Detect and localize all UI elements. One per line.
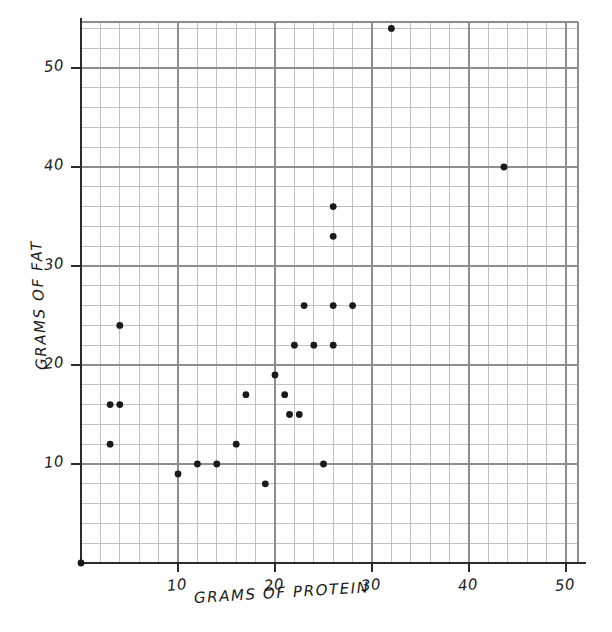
data-point <box>330 203 337 210</box>
data-point <box>320 461 327 468</box>
data-point <box>330 233 337 240</box>
data-point <box>501 164 508 171</box>
plot-canvas <box>0 0 612 632</box>
data-point <box>310 342 317 349</box>
scatter-plot-figure: 10 20 30 40 50 10 20 30 40 50 GRAMS OF P… <box>0 0 612 632</box>
y-tick-label: 50 <box>43 56 65 76</box>
axis-tick-marks <box>71 68 566 572</box>
data-point <box>349 302 356 309</box>
data-point <box>388 25 395 32</box>
x-tick-label: 10 <box>166 575 188 595</box>
y-tick-label: 40 <box>43 155 65 175</box>
data-point <box>213 461 220 468</box>
data-point <box>291 342 298 349</box>
data-point <box>107 441 114 448</box>
data-point <box>272 372 279 379</box>
data-point <box>116 401 123 408</box>
data-point-layer <box>78 25 508 566</box>
data-point <box>296 411 303 418</box>
data-point <box>107 401 114 408</box>
data-point <box>281 391 288 398</box>
data-point <box>233 441 240 448</box>
grid-minor-lines <box>81 22 578 563</box>
data-point <box>301 302 308 309</box>
data-point <box>330 342 337 349</box>
x-tick-label: 40 <box>457 575 479 595</box>
data-point <box>330 302 337 309</box>
data-point <box>116 322 123 329</box>
data-point <box>286 411 293 418</box>
data-point <box>262 480 269 487</box>
y-tick-label: 10 <box>43 452 65 472</box>
grid-major-lines <box>81 22 578 563</box>
data-point <box>78 560 85 567</box>
data-point <box>175 471 182 478</box>
data-point <box>194 461 201 468</box>
x-tick-label: 50 <box>554 575 576 595</box>
data-point <box>243 391 250 398</box>
